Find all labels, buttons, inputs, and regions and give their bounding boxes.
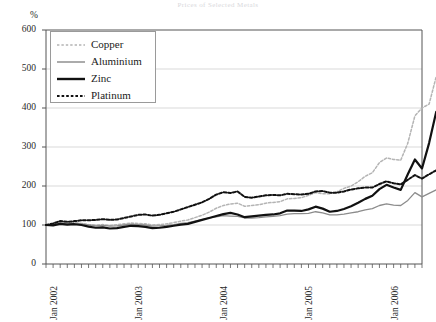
copper-line-swatch-icon bbox=[56, 40, 86, 50]
legend-item-copper: Copper bbox=[56, 36, 155, 53]
legend-label-copper: Copper bbox=[91, 39, 123, 50]
platinum-line-swatch-icon bbox=[56, 91, 86, 101]
y-tick-label-200: 200 bbox=[10, 181, 36, 191]
legend-item-aluminium: Aluminium bbox=[56, 53, 155, 70]
legend-label-platinum: Platinum bbox=[91, 90, 131, 101]
zinc-line-swatch-icon bbox=[56, 74, 86, 84]
legend-label-aluminium: Aluminium bbox=[91, 56, 142, 67]
y-tick-label-300: 300 bbox=[10, 142, 36, 152]
y-tick-label-100: 100 bbox=[10, 220, 36, 230]
chart-figure: Prices of Selected Metals % Copper Alumi… bbox=[0, 0, 436, 322]
aluminium-line-swatch-icon bbox=[56, 57, 86, 67]
chart-legend: Copper Aluminium Zinc Platinum bbox=[50, 31, 156, 103]
y-tick-label-0: 0 bbox=[10, 259, 36, 269]
x-tick-label-jan-2006: Jan 2006 bbox=[391, 286, 401, 320]
series-line-zinc bbox=[46, 112, 436, 229]
x-tick-label-jan-2003: Jan 2003 bbox=[135, 286, 145, 320]
y-tick-label-400: 400 bbox=[10, 103, 36, 113]
legend-item-platinum: Platinum bbox=[56, 87, 155, 104]
y-tick-label-500: 500 bbox=[10, 64, 36, 74]
x-tick-label-jan-2004: Jan 2004 bbox=[220, 286, 230, 320]
legend-label-zinc: Zinc bbox=[91, 73, 111, 84]
legend-item-zinc: Zinc bbox=[56, 70, 155, 87]
y-tick-label-600: 600 bbox=[10, 25, 36, 35]
x-tick-label-jan-2005: Jan 2005 bbox=[305, 286, 315, 320]
x-tick-label-jan-2002: Jan 2002 bbox=[50, 286, 60, 320]
